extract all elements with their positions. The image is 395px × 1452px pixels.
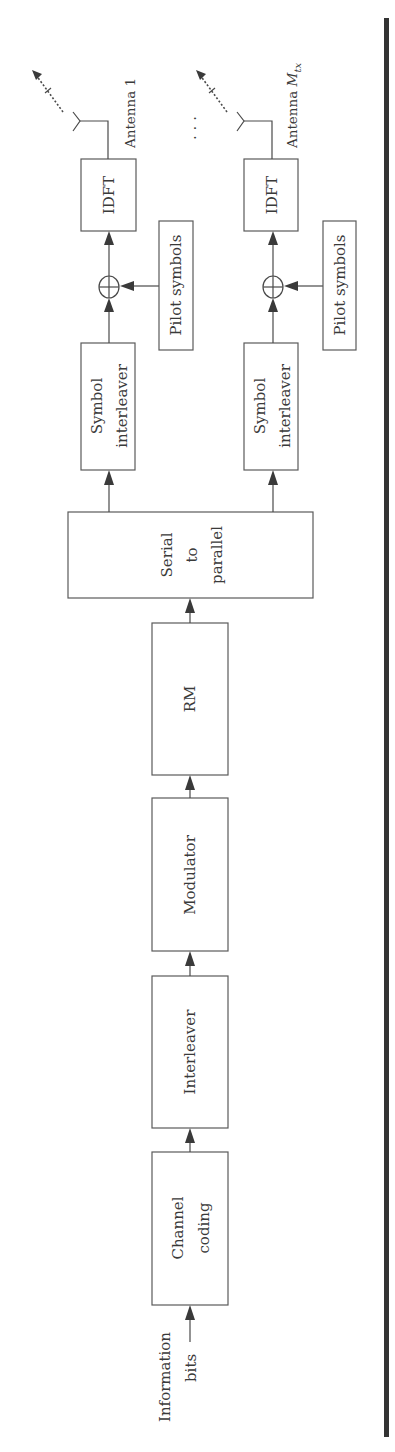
block-idft-2: IDFT [244, 159, 298, 231]
branch-antenna-1: Symbol interleaver Pilot symbols IDFT [32, 70, 193, 512]
arrow-up-icon [268, 470, 278, 485]
ellipsis: . . . [182, 116, 200, 140]
antenna-mtx: Antenna Mtx [196, 63, 303, 159]
block-symbol-interleaver-2: Symbol interleaver [244, 343, 298, 470]
symbol-interleaver-2-line1: Symbol [251, 378, 269, 435]
radio-wave-icon [200, 75, 227, 112]
symbol-interleaver-1-line1: Symbol [88, 378, 106, 435]
channel-coding-line1: Channel [169, 1196, 187, 1259]
pilot-symbols-2-label: Pilot symbols [331, 234, 349, 335]
arrow-up-icon [268, 298, 278, 312]
s2p-line2: to [183, 547, 201, 562]
idft-1-label: IDFT [100, 176, 118, 214]
pilot-symbols-1-label: Pilot symbols [167, 234, 185, 335]
input-information-bits: Information bits [156, 1305, 200, 1422]
arrow-up-icon [104, 231, 114, 245]
arrow-up-icon [104, 470, 114, 485]
antenna-1-label: Antenna 1 [122, 78, 138, 149]
block-pilot-symbols-1: Pilot symbols [159, 221, 193, 350]
block-serial-to-parallel: Serial to parallel [68, 512, 313, 598]
arrow-up-icon [185, 1305, 195, 1320]
input-label-line2: bits [182, 1354, 200, 1382]
adder-1 [99, 276, 119, 298]
antenna-icon [73, 112, 80, 131]
rm-label: RM [181, 686, 199, 713]
antenna-mtx-label: Antenna Mtx [284, 63, 303, 149]
input-label-line1: Information [156, 1332, 174, 1422]
arrow-up-icon [104, 298, 114, 312]
antenna-1: Antenna 1 [32, 70, 138, 159]
channel-coding-line2: coding [195, 1202, 213, 1253]
block-interleaver: Interleaver [152, 976, 228, 1128]
idft-2-label: IDFT [263, 176, 281, 214]
arrow-left-icon [120, 281, 134, 291]
s2p-line1: Serial [158, 532, 176, 577]
arrow-left-icon [284, 281, 298, 291]
block-symbol-interleaver-1: Symbol interleaver [81, 343, 135, 470]
arrow-up-icon [185, 598, 195, 613]
arrow-up-icon [185, 775, 195, 790]
arrow-up-icon [185, 1128, 195, 1143]
block-channel-coding: Channel coding [152, 1152, 228, 1305]
block-pilot-symbols-2: Pilot symbols [323, 221, 356, 350]
symbol-interleaver-1-line2: interleaver [113, 363, 131, 448]
interleaver-label: Interleaver [181, 1009, 199, 1095]
antenna-icon [237, 112, 244, 131]
block-idft-1: IDFT [81, 159, 136, 231]
radio-wave-icon [36, 75, 63, 112]
block-rm: RM [152, 623, 228, 775]
page-rule [384, 18, 389, 1437]
modulator-label: Modulator [181, 834, 199, 914]
symbol-interleaver-2-line2: interleaver [276, 363, 294, 448]
arrow-up-icon [268, 231, 278, 245]
block-modulator: Modulator [152, 798, 228, 951]
transmitter-block-diagram: Information bits Channel coding Interlea… [0, 0, 395, 1452]
s2p-line3: parallel [208, 526, 226, 584]
branch-antenna-mtx: Symbol interleaver Pilot symbols IDFT [196, 63, 356, 512]
arrow-up-icon [185, 951, 195, 966]
adder-2 [263, 276, 283, 298]
